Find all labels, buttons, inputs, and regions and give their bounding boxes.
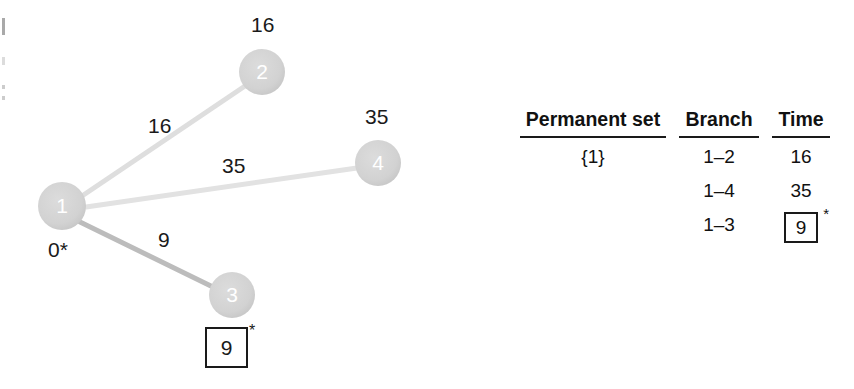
graph-node-4-label: 4 [372,151,384,174]
table-header-row: Permanent set Branch Time [520,108,830,137]
cell-gap-2 [759,172,772,206]
cell-gap-1 [666,206,679,243]
time-box-wrapper: 9 * [784,212,818,243]
cell-time: 16 [772,137,830,172]
edge-1-2 [82,86,245,196]
table-header-gap-1 [666,108,679,137]
graph-node-2-label: 2 [256,60,268,83]
graph-node-1-label: 1 [56,194,68,217]
cell-branch: 1–2 [679,137,759,172]
graph-node-4[interactable]: 4 [355,140,401,186]
graph-edges [80,86,357,288]
edge-1-3 [80,222,215,288]
node-3-permanent-star: * [249,323,255,339]
cell-branch: 1–4 [679,172,759,206]
graph-panel: 1 2 3 4 16 35 0* 16 35 9 9 * [0,0,470,389]
edge-label-1-3: 9 [158,229,170,250]
cell-permanent-set [520,206,666,243]
selected-time-star: * [823,206,829,221]
graph-node-3[interactable]: 3 [209,272,255,318]
graph-node-2[interactable]: 2 [239,49,285,95]
table-header-permanent-set: Permanent set [520,108,666,137]
cell-time-boxed: 9 * [772,206,830,243]
cell-gap-2 [759,206,772,243]
graph-node-3-label: 3 [226,283,238,306]
cell-gap-2 [759,137,772,172]
cell-branch: 1–3 [679,206,759,243]
selected-time-box: 9 [784,212,818,243]
table-row: {1} 1–2 16 [520,137,830,172]
cell-gap-1 [666,137,679,172]
cell-permanent-set: {1} [520,137,666,172]
table-header-time: Time [772,108,830,137]
node-2-distance-label: 16 [251,14,274,35]
node-3-permanent-value-box: 9 [205,327,248,368]
iteration-table: Permanent set Branch Time {1} 1–2 16 1–4… [520,108,830,243]
node-1-distance-label: 0* [48,239,68,260]
iteration-table-panel: Permanent set Branch Time {1} 1–2 16 1–4… [520,108,850,243]
node-4-distance-label: 35 [365,106,388,127]
graph-nodes: 1 2 3 4 [38,49,401,318]
graph-node-1[interactable]: 1 [38,182,86,230]
table-row: 1–3 9 * [520,206,830,243]
cell-time: 35 [772,172,830,206]
table-header-branch: Branch [679,108,759,137]
cell-gap-1 [666,172,679,206]
edge-label-1-2: 16 [148,115,171,136]
cell-permanent-set [520,172,666,206]
edge-label-1-4: 35 [222,155,245,176]
table-row: 1–4 35 [520,172,830,206]
table-header-gap-2 [759,108,772,137]
